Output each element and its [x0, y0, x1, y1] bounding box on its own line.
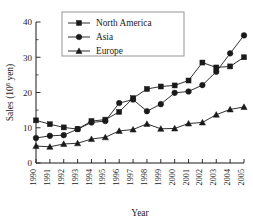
legend-label: North America [96, 18, 152, 28]
data-point [186, 78, 191, 83]
x-tick-label: 1999 [154, 169, 163, 185]
series-north-america [34, 55, 247, 132]
x-tick-label: 1990 [29, 169, 38, 185]
data-point [144, 121, 150, 127]
data-point [75, 126, 81, 132]
y-tick-label: 20 [23, 88, 33, 98]
data-point [116, 100, 122, 106]
legend: North AmericaAsiaEurope [62, 12, 184, 56]
y-axis-title-text: Sales (108 yen) [4, 64, 17, 122]
data-point [47, 133, 53, 139]
x-tick-label: 2004 [223, 169, 232, 185]
y-tick-label: 40 [23, 17, 33, 27]
x-tick-label: 1997 [126, 169, 135, 185]
legend-marker [76, 34, 82, 40]
data-point [103, 118, 109, 124]
y-tick-label: 10 [23, 123, 33, 133]
data-point [61, 125, 66, 130]
series-line [36, 57, 244, 129]
legend-label: Asia [96, 32, 113, 42]
x-tick-label: 1993 [71, 169, 80, 185]
chart-container: 0102030401990199119921993199419951996199… [0, 0, 253, 223]
x-tick-label: 1994 [85, 169, 94, 185]
y-tick-label: 0 [28, 158, 33, 168]
data-point [241, 104, 247, 110]
data-point [200, 82, 206, 88]
data-point [144, 86, 149, 91]
data-point [102, 134, 108, 140]
x-tick-label: 2001 [182, 169, 191, 185]
data-point [33, 135, 39, 141]
legend-marker [77, 21, 82, 26]
x-tick-label: 1998 [140, 169, 149, 185]
data-point [47, 122, 52, 127]
data-point [172, 90, 178, 96]
line-chart: 0102030401990199119921993199419951996199… [0, 0, 253, 223]
x-tick-label: 2005 [237, 169, 246, 185]
data-point [130, 126, 136, 132]
data-point [242, 55, 247, 60]
data-point [61, 132, 67, 138]
x-tick-label: 1992 [57, 169, 66, 185]
data-point [241, 33, 247, 39]
x-tick-label: 2000 [168, 169, 177, 185]
data-point [89, 120, 95, 126]
data-point [213, 112, 219, 118]
data-point [228, 64, 233, 69]
x-tick-label: 2003 [209, 169, 218, 185]
data-point [158, 84, 163, 89]
series-line [36, 107, 244, 147]
y-axis-title: Sales (108 yen) [4, 64, 17, 122]
x-tick-label: 1995 [98, 169, 107, 185]
x-tick-label: 2002 [195, 169, 204, 185]
data-point [172, 83, 177, 88]
data-point [213, 69, 219, 75]
data-point [186, 89, 192, 95]
data-point [34, 118, 39, 123]
x-tick-label: 1991 [43, 169, 52, 185]
data-point [117, 109, 122, 114]
data-point [200, 60, 205, 65]
legend-label: Europe [96, 46, 123, 56]
y-tick-label: 30 [23, 53, 33, 63]
x-axis-title: Year [131, 208, 149, 218]
data-point [144, 108, 150, 114]
data-point [227, 51, 233, 57]
data-point [130, 97, 136, 103]
data-point [158, 101, 164, 107]
x-tick-label: 1996 [112, 169, 121, 185]
